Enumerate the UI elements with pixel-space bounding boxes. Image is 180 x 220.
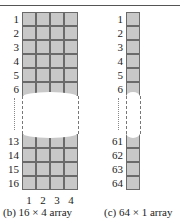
array-cell [22,148,36,162]
array-cell [126,148,140,162]
array-cell [126,40,140,54]
array-cell [126,12,140,26]
array-cell [64,40,78,54]
caption-c: (c) 64 × 1 array [104,206,173,218]
row-label: 4 [105,55,123,67]
ellipsis-dots [14,98,15,130]
row-label: 1 [105,13,123,25]
array-cell [64,54,78,68]
column-label: 4 [64,194,78,206]
row-label: 5 [1,69,19,81]
row-label: 2 [1,27,19,39]
column-label: 1 [22,194,36,206]
row-label: 3 [105,41,123,53]
row-label: 2 [105,27,123,39]
row-label: 4 [1,55,19,67]
array-cell [36,176,50,190]
array-cell [50,176,64,190]
top-rule [0,5,180,6]
array-cell [64,68,78,82]
row-label: 6 [1,83,19,95]
array-cell [36,26,50,40]
array-cell [50,54,64,68]
array-cell [50,26,64,40]
array-cell [64,148,78,162]
ellipsis-dots [118,98,119,130]
row-label: 5 [105,69,123,81]
array-cell [22,12,36,26]
array-cell [22,162,36,176]
array-cell [36,40,50,54]
continuation-line-right [78,96,79,134]
column-label: 2 [36,194,50,206]
array-cell [50,40,64,54]
row-label: 1 [1,13,19,25]
array-cell [22,26,36,40]
array-cell [126,68,140,82]
array-cell [126,54,140,68]
array-cell [50,148,64,162]
break-edge-top [126,92,140,97]
row-label: 16 [1,177,19,189]
row-label: 3 [1,41,19,53]
column-label: 3 [50,194,64,206]
continuation-line-left [126,96,127,134]
array-cell [36,162,50,176]
row-label: 62 [105,149,123,161]
array-cell [64,176,78,190]
array-cell [36,54,50,68]
row-label: 14 [1,149,19,161]
row-label: 6 [105,83,123,95]
array-cell [126,26,140,40]
array-cell [64,162,78,176]
array-cell [50,162,64,176]
row-label: 15 [1,163,19,175]
array-cell [50,12,64,26]
array-cell [64,26,78,40]
array-cell [22,176,36,190]
array-cell [126,176,140,190]
array-cell [22,54,36,68]
continuation-line-left [22,96,23,134]
array-cell [36,148,50,162]
row-label: 64 [105,177,123,189]
array-cell [36,12,50,26]
array-cell [64,12,78,26]
break-edge-top [22,92,78,97]
array-cell [22,68,36,82]
array-cell [50,68,64,82]
row-label: 63 [105,163,123,175]
array-cell [126,162,140,176]
row-label: 13 [1,135,19,147]
row-label: 61 [105,135,123,147]
continuation-line-right [140,96,141,134]
caption-b: (b) 16 × 4 array [3,206,72,218]
array-cell [22,40,36,54]
array-cell [36,68,50,82]
